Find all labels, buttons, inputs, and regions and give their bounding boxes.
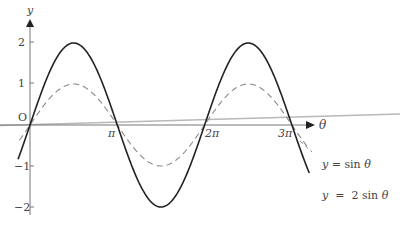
x-tick-label-2pi: 2π [204, 127, 220, 140]
y-axis-arrow-icon [26, 19, 34, 27]
y-axis: y [26, 4, 34, 215]
legend-sin-theta: y = sin θ [315, 145, 371, 171]
legend-sin-eq: = [328, 158, 344, 171]
scan-artifact-line [0, 114, 400, 126]
legend-leader-sin [300, 141, 312, 152]
y-tick-label-1: 1 [18, 77, 25, 90]
legend-2sin-var: θ [382, 189, 389, 202]
y-tick-label-2: 2 [18, 36, 25, 49]
y-tick-label-neg2: −2 [14, 201, 30, 214]
x-axis-label: θ [319, 118, 327, 132]
legend-2sin-eq: = [328, 189, 351, 202]
x-tick-label-pi: π [107, 127, 116, 140]
y-tick-label-neg1: −1 [14, 160, 30, 173]
y-axis-label: y [26, 4, 34, 17]
x-axis-arrow-icon [306, 121, 315, 129]
x-tick-label-3pi: 3π [278, 127, 293, 140]
legend-2sin-theta: y = 2 sin θ [315, 176, 388, 202]
origin-label: O [18, 111, 27, 124]
legend-sin-fn: sin [344, 158, 364, 171]
legend-sin-var: θ [364, 158, 371, 171]
legend-2sin-fn: 2 sin [351, 189, 381, 202]
